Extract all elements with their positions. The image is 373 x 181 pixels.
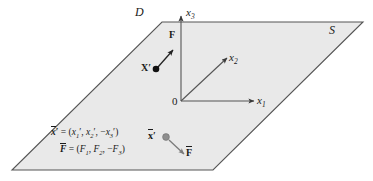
force-equation: F = (F1, F2, −F3) bbox=[60, 145, 125, 156]
position-equation-sep2: ′, − bbox=[93, 127, 105, 137]
surface-label-S: S bbox=[329, 24, 335, 36]
x2-axis-label: x2 bbox=[229, 52, 238, 66]
force-vector-F-label: F bbox=[169, 30, 175, 40]
position-equation-end: ′) bbox=[113, 127, 118, 137]
point-x-prime-label-prime: ′ bbox=[148, 62, 151, 73]
force-equation-c3: F3 bbox=[113, 144, 122, 154]
origin-label: 0 bbox=[172, 96, 178, 107]
force-vector-F-bar-label: F bbox=[186, 148, 192, 158]
position-equation-lhs: x bbox=[51, 128, 56, 138]
x1-axis-label-sub: 1 bbox=[262, 100, 266, 109]
force-equation-c1: F1 bbox=[80, 144, 89, 154]
x2-axis-label-sub: 2 bbox=[234, 57, 238, 66]
x3-axis-label: x3 bbox=[186, 7, 195, 21]
position-equation-c3: x3 bbox=[106, 127, 113, 137]
force-equation-end: ) bbox=[122, 144, 125, 154]
force-equation-eq: = ( bbox=[69, 144, 80, 154]
x1-axis-label: x1 bbox=[257, 95, 266, 109]
position-equation-eq: = ( bbox=[61, 127, 72, 137]
position-equation-lhs-prime: ′ bbox=[56, 127, 59, 137]
point-x-bar-prime-label-prime: ′ bbox=[153, 130, 156, 141]
position-equation-sep1: ′, bbox=[79, 127, 86, 137]
point-x-bar-prime-label-base: x bbox=[148, 131, 153, 141]
force-vector-F-bar-label-base: F bbox=[186, 148, 192, 158]
domain-label-D: D bbox=[135, 6, 144, 18]
position-equation: x′ = (x1′, x2′, −x3′) bbox=[51, 128, 118, 139]
point-x-prime-label: X′ bbox=[141, 63, 151, 73]
point-x-prime-marker bbox=[153, 66, 160, 73]
point-x-bar-prime-label: x′ bbox=[148, 131, 156, 141]
force-equation-lhs: F bbox=[60, 145, 66, 155]
figure-canvas: D S x3 x2 x1 0 X′ F x′ F x′ = (x1′, x2′,… bbox=[0, 0, 373, 181]
point-x-bar-prime-marker bbox=[163, 134, 170, 141]
x3-axis-label-sub: 3 bbox=[191, 12, 195, 21]
force-equation-sep2: , − bbox=[102, 144, 112, 154]
